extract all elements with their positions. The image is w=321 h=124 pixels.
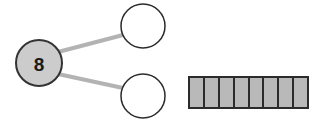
- bottom-part-circle[interactable]: [121, 74, 165, 118]
- bar-cell[interactable]: [204, 77, 219, 108]
- bar-cell[interactable]: [249, 77, 264, 108]
- part-nodes: [121, 4, 165, 118]
- bar-cell[interactable]: [278, 77, 293, 108]
- bar-cell[interactable]: [293, 77, 308, 108]
- connector-to-bottom-part-line: [58, 74, 123, 88]
- bar-cell[interactable]: [234, 77, 249, 108]
- whole-node[interactable]: 8: [16, 40, 62, 86]
- bar-cell[interactable]: [189, 77, 204, 108]
- bond-connectors: [58, 35, 123, 88]
- top-part-circle[interactable]: [121, 4, 165, 48]
- worksheet-canvas: 8: [0, 0, 321, 124]
- bar-cell[interactable]: [219, 77, 234, 108]
- math-diagram: 8: [0, 0, 321, 124]
- bar-cell[interactable]: [263, 77, 278, 108]
- whole-value-label: 8: [34, 54, 45, 75]
- connector-to-top-part-line: [58, 35, 123, 52]
- bar-model-group[interactable]: [189, 77, 308, 108]
